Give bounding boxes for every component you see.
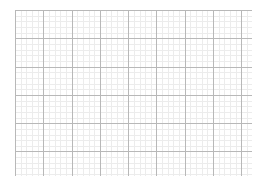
major-grid-lines	[15, 10, 252, 176]
graph-paper-grid	[0, 0, 269, 177]
